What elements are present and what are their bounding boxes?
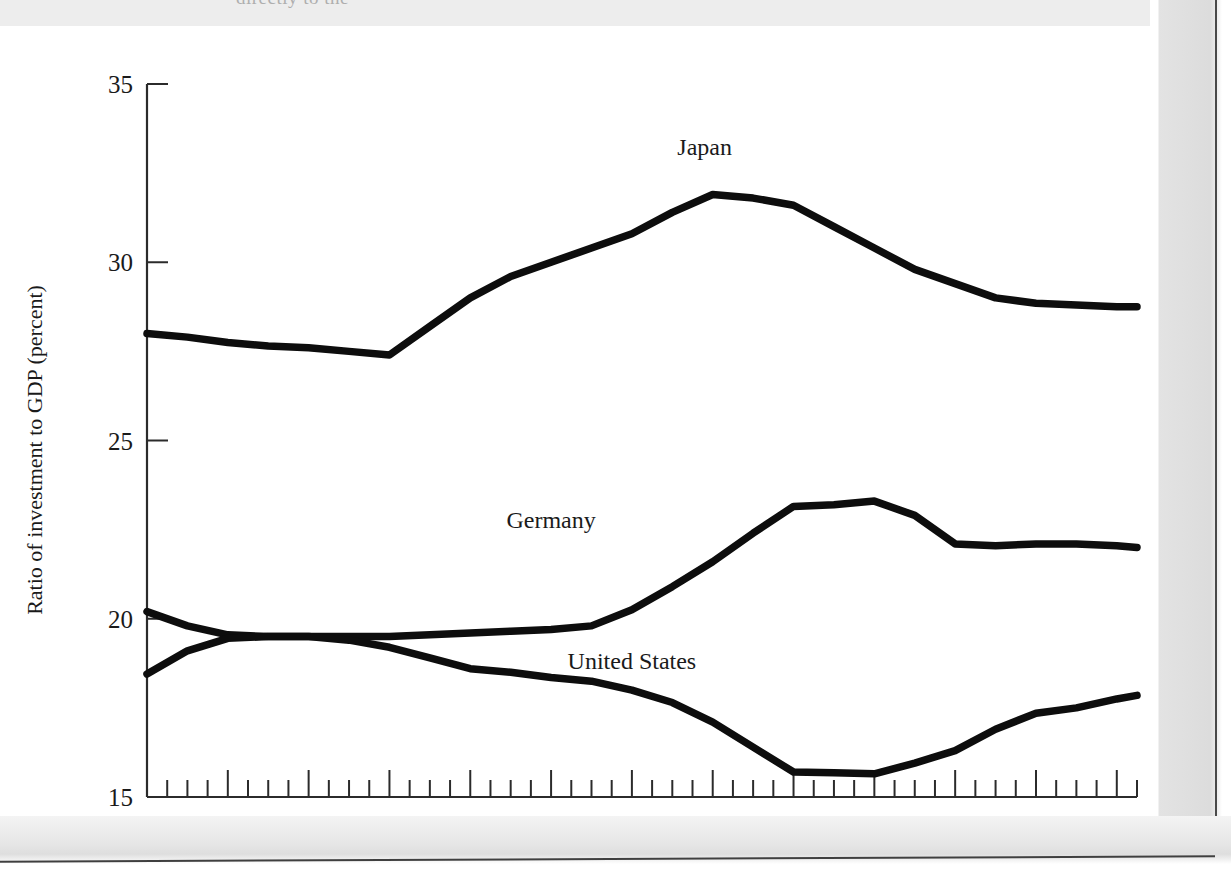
series-label-germany: Germany [506, 507, 595, 533]
series-label-united-states: United States [568, 648, 697, 674]
x-axis-minor-ticks [167, 780, 1137, 797]
x-tick-label: 1986 [364, 816, 414, 843]
y-tick-label: 35 [108, 71, 133, 98]
x-tick-label: 1984 [203, 816, 254, 843]
y-tick-label: 30 [108, 249, 133, 276]
data-series-lines [147, 195, 1137, 774]
series-line-germany [147, 501, 1137, 636]
y-tick-label: 25 [108, 428, 133, 455]
scanned-page: directly to the Ratio of investment to G… [0, 0, 1231, 894]
x-axis-tick-labels: 198419861988199019921994 [203, 816, 1062, 843]
data-series-labels: JapanGermanyUnited States [506, 134, 732, 673]
y-axis-ticks [147, 84, 168, 797]
y-axis-title: Ratio of investment to GDP (percent) [22, 285, 47, 615]
chart-svg: Ratio of investment to GDP (percent) 152… [0, 0, 1180, 860]
y-tick-label: 20 [108, 606, 133, 633]
y-axis-tick-labels: 1520253035 [108, 71, 133, 811]
x-tick-label: 1992 [849, 816, 899, 843]
series-label-japan: Japan [677, 134, 732, 160]
series-line-japan [147, 195, 1137, 355]
line-chart-figure: Ratio of investment to GDP (percent) 152… [0, 0, 1180, 860]
x-tick-label: 1990 [688, 816, 738, 843]
x-tick-label: 1994 [1011, 816, 1062, 843]
y-tick-label: 15 [108, 784, 133, 811]
x-axis-major-ticks [147, 770, 1117, 797]
x-tick-label: 1988 [526, 816, 576, 843]
